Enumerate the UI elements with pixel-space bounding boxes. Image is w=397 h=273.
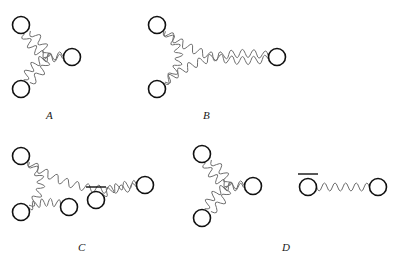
vertex-circle-b-top-left <box>149 17 166 34</box>
feynman-diagram-figure <box>0 0 397 273</box>
panel-label-a: A <box>46 110 53 121</box>
panel-label-c: C <box>78 242 85 253</box>
vertex-circle-d-barred <box>300 179 317 196</box>
wavy-edge-c-top-left-to-c-bottom-left <box>28 163 45 207</box>
vertices-layer <box>13 17 387 227</box>
vertex-circle-d-top-left <box>194 146 211 163</box>
vertex-circle-c-bottom-left <box>13 204 30 221</box>
vertex-circle-b-right <box>269 49 286 66</box>
vertex-circle-d-right <box>245 178 262 195</box>
panel-label-b: B <box>203 110 210 121</box>
vertex-circle-a-top-left <box>13 17 30 34</box>
wavy-edge-b-bottom-left-to-b-right <box>164 49 268 84</box>
vertex-circle-a-bottom-left <box>13 81 30 98</box>
vertex-circle-d-bottom-left <box>194 210 211 227</box>
vertex-circle-a-right <box>64 49 81 66</box>
vertex-circle-c-mid <box>61 199 78 216</box>
vertex-circle-d-far-right <box>370 179 387 196</box>
panel-label-d: D <box>282 242 290 253</box>
vertex-circle-b-bottom-left <box>149 81 166 98</box>
vertex-circle-c-right <box>137 177 154 194</box>
wavy-edge-d-barred-to-d-far-right <box>317 183 370 191</box>
vertex-circle-c-barred <box>88 192 105 209</box>
vertex-circle-c-top-left <box>13 148 30 165</box>
